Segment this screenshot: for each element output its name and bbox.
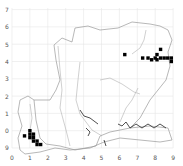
record-square <box>141 56 144 59</box>
record-square <box>170 60 173 63</box>
distribution-map: 0123456789765432109 <box>0 0 183 166</box>
record-square <box>159 56 162 59</box>
record-square <box>166 56 169 59</box>
record-square <box>146 56 149 59</box>
x-tick-label: 5 <box>100 154 104 161</box>
record-square <box>32 139 35 142</box>
record-square <box>28 132 31 135</box>
record-square <box>159 48 162 51</box>
x-tick-label: 0 <box>10 154 14 161</box>
x-tick-label: 1 <box>28 154 32 161</box>
x-tick-label: 8 <box>153 154 157 161</box>
y-tick-label: 2 <box>5 93 9 100</box>
record-square <box>155 53 158 56</box>
record-square <box>35 143 38 146</box>
record-square <box>123 53 126 56</box>
record-square <box>28 136 31 139</box>
y-tick-label: 6 <box>5 23 9 30</box>
record-square <box>35 139 38 142</box>
record-square <box>28 129 31 132</box>
y-tick-label: 5 <box>5 41 9 48</box>
x-tick-label: 7 <box>135 154 139 161</box>
record-square <box>32 136 35 139</box>
record-square <box>32 132 35 135</box>
grid-lines <box>12 8 173 148</box>
x-tick-label: 9 <box>171 154 175 161</box>
y-tick-label: 1 <box>5 110 9 117</box>
x-tick-label: 6 <box>117 154 121 161</box>
x-tick-label: 4 <box>82 154 86 161</box>
x-tick-label: 3 <box>64 154 68 161</box>
y-tick-label: 9 <box>5 144 9 151</box>
record-square <box>39 143 42 146</box>
record-square <box>150 58 153 61</box>
y-tick-label: 7 <box>5 6 9 13</box>
y-tick-label: 4 <box>5 58 9 65</box>
record-square <box>170 56 173 59</box>
record-square <box>23 134 26 137</box>
record-square <box>162 56 165 59</box>
y-tick-label: 0 <box>5 127 9 134</box>
x-tick-label: 2 <box>46 154 50 161</box>
record-squares <box>23 48 173 147</box>
record-square <box>155 58 158 61</box>
y-tick-label: 3 <box>5 75 9 82</box>
county-outline <box>18 22 172 154</box>
